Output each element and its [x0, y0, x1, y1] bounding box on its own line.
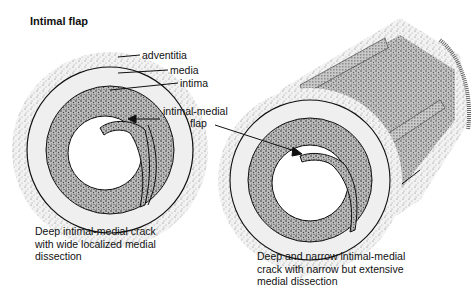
caption-left-line3: dissection: [35, 250, 156, 263]
caption-right-line1: Deep and narrow intimal-medial: [257, 250, 405, 263]
label-intima: intima: [180, 77, 208, 89]
label-media: media: [170, 64, 199, 76]
diagram-title: Intimal flap: [30, 15, 88, 27]
label-flap-line2: flap: [190, 117, 207, 129]
label-adventitia: adventitia: [142, 49, 187, 61]
caption-left: Deep intimal-medial crack with wide loca…: [35, 225, 156, 263]
caption-left-line2: with wide localized medial: [35, 238, 156, 251]
right-vessel: [218, 18, 470, 280]
label-flap-line1: intimal-medial: [163, 105, 228, 117]
caption-right-line3: medial dissection: [257, 275, 405, 288]
left-cross-section: [12, 52, 208, 248]
caption-left-line1: Deep intimal-medial crack: [35, 225, 156, 238]
caption-right: Deep and narrow intimal-medial crack wit…: [257, 250, 405, 288]
caption-right-line2: crack with narrow but extensive: [257, 263, 405, 276]
